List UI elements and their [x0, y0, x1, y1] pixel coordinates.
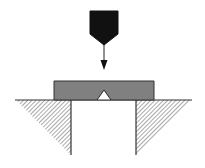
right-anvil — [136, 100, 191, 155]
right-anvil-hatch — [136, 100, 191, 155]
impact-arrow-icon — [101, 45, 108, 70]
charpy-test-diagram — [0, 0, 205, 168]
striker — [90, 11, 118, 45]
left-anvil-hatch — [16, 100, 71, 155]
left-anvil — [16, 100, 71, 155]
striker-body — [90, 11, 118, 45]
